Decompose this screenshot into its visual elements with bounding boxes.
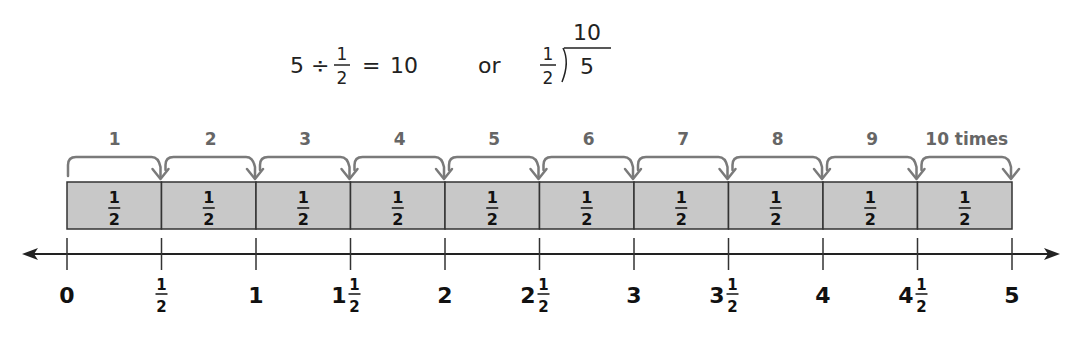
jump-arc <box>544 157 634 177</box>
segment-denominator: 2 <box>959 210 970 229</box>
segment-denominator: 2 <box>392 210 403 229</box>
segment-numerator: 1 <box>770 188 781 207</box>
segment-denominator: 2 <box>770 210 781 229</box>
half-segments: 12121212121212121212 <box>67 182 1012 229</box>
jump-label: 2 <box>205 129 217 149</box>
segment-numerator: 1 <box>203 188 214 207</box>
segment-denominator: 2 <box>109 210 120 229</box>
tick-label-numerator: 1 <box>349 276 359 294</box>
tick-label-whole: 3 <box>709 283 724 308</box>
segment-denominator: 2 <box>581 210 592 229</box>
equation-divisor-numerator: 1 <box>337 44 348 64</box>
segment-numerator: 1 <box>487 188 498 207</box>
segment-denominator: 2 <box>865 210 876 229</box>
tick-label: 1 <box>248 283 263 308</box>
segment-numerator: 1 <box>392 188 403 207</box>
tick-label-whole: 2 <box>520 283 535 308</box>
long-division-quotient: 10 <box>573 20 601 45</box>
tick-label-whole: 1 <box>331 283 346 308</box>
jump-arc <box>922 157 1012 177</box>
long-division-divisor-numerator: 1 <box>543 44 554 64</box>
jump-arc <box>68 157 161 177</box>
tick-label-numerator: 1 <box>727 276 737 294</box>
tick-label-denominator: 2 <box>538 298 548 316</box>
tick-label-denominator: 2 <box>916 298 926 316</box>
segment-numerator: 1 <box>581 188 592 207</box>
equation-result: 10 <box>390 53 418 78</box>
jump-label: 8 <box>772 129 784 149</box>
jump-arc <box>355 157 445 177</box>
equation-divisor-denominator: 2 <box>337 68 348 88</box>
tick-label: 4 <box>815 283 830 308</box>
tick-label: 2 <box>437 283 452 308</box>
jump-label: 1 <box>109 129 121 149</box>
tick-label-whole: 4 <box>898 283 913 308</box>
equation-operator: ÷ <box>311 53 329 78</box>
segment-numerator: 1 <box>865 188 876 207</box>
segment-denominator: 2 <box>203 210 214 229</box>
number-line: 01211122212331244125 <box>22 238 1060 316</box>
tick-label-numerator: 1 <box>156 276 166 294</box>
segment-numerator: 1 <box>109 188 120 207</box>
segment-denominator: 2 <box>298 210 309 229</box>
jump-arc <box>449 157 539 177</box>
tick-label-denominator: 2 <box>156 298 166 316</box>
division-number-line-diagram: 5 ÷ 1 2 = 10 or 1 2 10 5 12345678910 tim… <box>0 0 1083 338</box>
segment-denominator: 2 <box>676 210 687 229</box>
segment-numerator: 1 <box>676 188 687 207</box>
segment-numerator: 1 <box>298 188 309 207</box>
jump-label: 6 <box>583 129 595 149</box>
equation-or: or <box>478 53 501 78</box>
tick-label-numerator: 1 <box>916 276 926 294</box>
equation: 5 ÷ 1 2 = 10 or 1 2 10 5 <box>290 20 611 88</box>
tick-label: 3 <box>626 283 641 308</box>
tick-label: 0 <box>59 283 74 308</box>
jump-arcs: 12345678910 times <box>68 129 1019 179</box>
segment-denominator: 2 <box>487 210 498 229</box>
jump-label: 10 times <box>925 129 1008 149</box>
segment-numerator: 1 <box>959 188 970 207</box>
jump-arc <box>166 157 256 177</box>
jump-label: 5 <box>488 129 500 149</box>
tick-label-numerator: 1 <box>538 276 548 294</box>
jump-arc <box>827 157 917 177</box>
jump-label: 9 <box>866 129 878 149</box>
long-division-dividend: 5 <box>580 54 594 79</box>
equation-equals: = <box>362 53 380 78</box>
jump-label: 4 <box>394 129 406 149</box>
equation-dividend: 5 <box>290 53 304 78</box>
long-division-divisor-denominator: 2 <box>543 68 554 88</box>
tick-label: 5 <box>1004 283 1019 308</box>
jump-label: 7 <box>677 129 689 149</box>
tick-label-denominator: 2 <box>727 298 737 316</box>
jump-arc <box>260 157 350 177</box>
jump-arc <box>733 157 823 177</box>
jump-label: 3 <box>299 129 311 149</box>
jump-arc <box>638 157 728 177</box>
tick-label-denominator: 2 <box>349 298 359 316</box>
